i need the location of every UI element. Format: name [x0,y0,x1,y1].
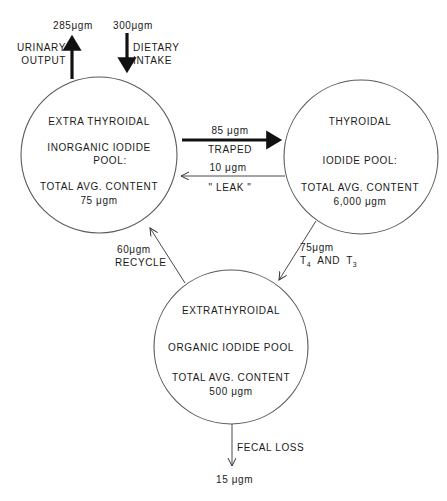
dietary-amount: 300μgm [113,20,153,31]
iodine-flow-diagram: 285μgm URINARY OUTPUT 300μgm DIETARY INT… [0,0,447,501]
urinary-label-1: URINARY [17,42,66,53]
organic-pool-line2: ORGANIC IODIDE POOL [168,342,294,353]
trapped-amount: 85 μgm [211,125,248,136]
inorganic-pool-line1: EXTRA THYROIDAL [48,116,150,127]
inorganic-pool-line5: 75 μgm [80,195,117,206]
organic-pool-line3: TOTAL AVG. CONTENT [172,372,290,383]
urinary-label-2: OUTPUT [21,55,66,66]
inorganic-pool-line3: POOL: [93,155,127,166]
recycle-label: RECYCLE [115,257,166,268]
leak-amount: 10 μgm [209,162,246,173]
inorganic-pool-line4: TOTAL AVG. CONTENT [40,181,158,192]
inorganic-pool-line2: INORGANIC IODIDE [47,142,151,153]
thyroidal-pool-line2: IODIDE POOL: [323,155,398,166]
organic-pool-line1: EXTRATHYROIDAL [182,305,280,316]
thyroidal-pool-line1: THYROIDAL [329,116,392,127]
organic-pool-line4: 500 μgm [209,386,252,397]
trapped-label: TRAPED [208,144,252,155]
fecal-amount: 15 μgm [216,474,253,485]
dietary-label-2: INTAKE [133,55,172,66]
fecal-label: FECAL LOSS [237,442,304,453]
hormone-label: T4ANDT3 [300,255,357,268]
recycle-amount: 60μgm [117,244,151,255]
hormone-amount: 75μgm [300,242,334,253]
recycle-arrow [150,228,185,283]
thyroidal-pool-line3: TOTAL AVG. CONTENT [301,182,419,193]
leak-label: " LEAK " [208,182,251,193]
thyroidal-pool-line4: 6,000 μgm [334,196,387,207]
urinary-amount: 285μgm [53,20,93,31]
dietary-label-1: DIETARY [133,42,180,53]
